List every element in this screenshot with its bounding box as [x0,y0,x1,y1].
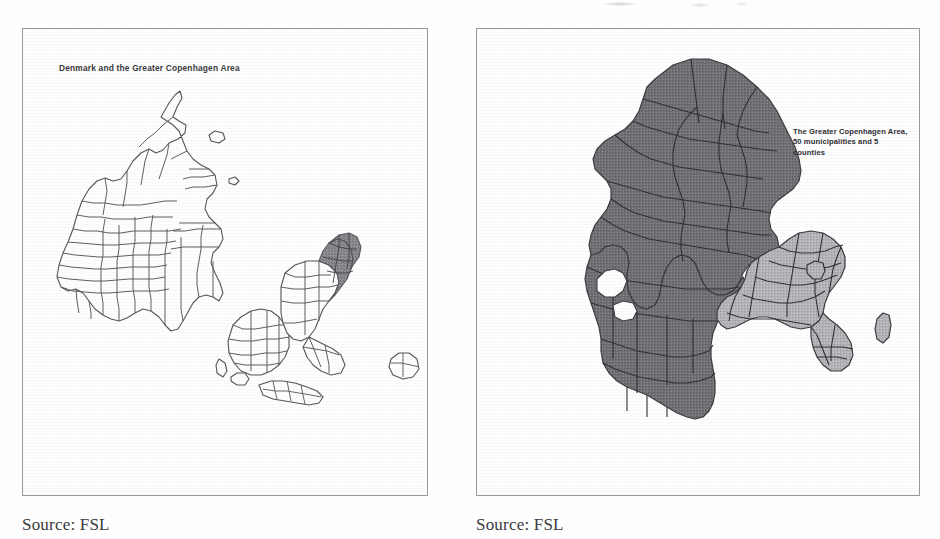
right-source-caption: Source: FSL [476,515,564,535]
figure-frame-right: The Greater Copenhagen Area, 50 municipa… [476,28,920,496]
enclave-municipality [807,261,825,279]
denmark-municipality-map [23,29,427,495]
document-page: Denmark and the Greater Copenhagen Area … [0,0,940,539]
figure-frame-left: Denmark and the Greater Copenhagen Area [22,28,428,496]
left-panel-title: Denmark and the Greater Copenhagen Area [59,63,240,74]
bornholm-island [389,353,419,379]
left-source-caption: Source: FSL [22,515,110,535]
figure-panel-left: Denmark and the Greater Copenhagen Area … [16,22,446,537]
figure-panel-right: The Greater Copenhagen Area, 50 municipa… [470,22,926,537]
greater-copenhagen-annotation: The Greater Copenhagen Area, 50 municipa… [793,127,909,158]
ven-island [875,313,891,343]
zealand-greater-copenhagen-map [477,29,919,495]
